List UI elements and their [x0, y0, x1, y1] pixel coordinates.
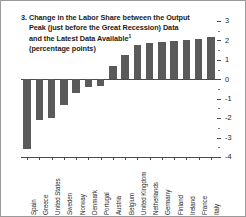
x-axis-label-france: France — [201, 196, 208, 215]
y-tick-label: -1 — [225, 95, 232, 102]
x-axis-label-denmark: Denmark — [91, 190, 98, 215]
x-tick-mark — [64, 157, 65, 160]
x-tick-mark — [113, 157, 114, 160]
chart-title-line-2: Peak (just before the Great Recession) D… — [21, 23, 203, 33]
x-tick-mark — [27, 157, 28, 160]
y-tick-mark — [217, 138, 221, 139]
x-axis-label-portugal: Portugal — [103, 192, 110, 215]
bar-rect — [109, 66, 116, 80]
y-tick-label: 2 — [225, 37, 229, 44]
x-axis-labels: SpainGreeceUnited StatesSwedenNorwayDenm… — [21, 161, 217, 217]
x-axis-label-austria: Austria — [115, 196, 122, 215]
x-tick-mark — [174, 157, 175, 160]
x-tick-mark — [76, 157, 77, 160]
bar-rect — [36, 79, 43, 120]
x-axis-label-finland: Finland — [177, 195, 184, 215]
y-tick-mark — [217, 99, 221, 100]
chart-title-block: 3. Change in the Labor Share between the… — [21, 13, 203, 54]
y-tick-label: 3 — [225, 17, 229, 24]
y-axis: 3210-1-2-3-4 — [217, 21, 246, 157]
x-axis-label-spain: Spain — [30, 199, 37, 215]
y-tick-minor — [218, 50, 220, 51]
x-axis-label-belgium: Belgium — [128, 193, 135, 215]
chart-title-line-3: and the Latest Data Available1 — [21, 32, 203, 44]
x-tick-mark — [137, 157, 138, 160]
x-axis-label-germany: Germany — [164, 190, 171, 215]
bar-rect — [60, 79, 67, 104]
y-tick-minor — [218, 31, 220, 32]
y-tick-label: 0 — [225, 76, 229, 83]
bar-rect — [85, 79, 92, 87]
x-axis-label-netherlands: Netherlands — [152, 182, 159, 215]
figure-panel: 3. Change in the Labor Share between the… — [0, 0, 246, 217]
x-tick-mark — [52, 157, 53, 160]
y-tick-minor — [218, 89, 220, 90]
y-tick-minor — [218, 128, 220, 129]
bar-rect — [207, 37, 214, 80]
x-axis-label-united-kingdom: United Kingdom — [140, 172, 147, 215]
x-axis-label-sweden: Sweden — [66, 193, 73, 215]
bar-rect — [97, 79, 104, 86]
x-axis-label-united-states: United States — [54, 178, 61, 215]
bar-rect — [121, 55, 128, 79]
bar-rect — [48, 79, 55, 118]
y-tick-label: 1 — [225, 56, 229, 63]
x-tick-mark — [101, 157, 102, 160]
y-tick-mark — [217, 60, 221, 61]
x-tick-mark — [162, 157, 163, 160]
x-tick-mark — [39, 157, 40, 160]
y-tick-mark — [217, 157, 221, 158]
y-tick-minor — [218, 147, 220, 148]
y-tick-label: -4 — [225, 153, 232, 160]
y-tick-mark — [217, 21, 221, 22]
chart-title-line-3-text: and the Latest Data Available — [29, 35, 128, 44]
y-tick-label: -3 — [225, 134, 232, 141]
x-axis-line — [21, 157, 217, 158]
y-tick-mark — [217, 40, 221, 41]
y-tick-minor — [218, 108, 220, 109]
x-axis-label-italy: Italy — [213, 204, 220, 215]
y-tick-mark — [217, 118, 221, 119]
footnote-marker: 1 — [128, 33, 131, 39]
x-axis-label-greece: Greece — [42, 195, 49, 215]
y-tick-label: -2 — [225, 114, 232, 121]
bar-italy[interactable] — [207, 21, 214, 157]
x-tick-mark — [199, 157, 200, 160]
y-tick-minor — [218, 70, 220, 71]
bar-rect — [72, 79, 79, 93]
x-tick-mark — [150, 157, 151, 160]
x-tick-mark — [125, 157, 126, 160]
x-axis-label-ireland: Ireland — [189, 196, 196, 215]
bar-rect — [23, 79, 30, 149]
x-tick-mark — [211, 157, 212, 160]
chart-title-line-1: 3. Change in the Labor Share between the… — [21, 13, 203, 23]
x-tick-mark — [88, 157, 89, 160]
y-tick-mark — [217, 79, 221, 80]
x-axis-label-norway: Norway — [79, 194, 86, 215]
chart-subtitle: (percentage points) — [21, 44, 203, 54]
x-tick-mark — [186, 157, 187, 160]
